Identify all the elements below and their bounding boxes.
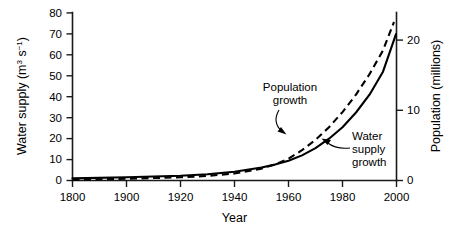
- y2-tick-label-20: 20: [407, 34, 420, 46]
- series-line-water-supply-growth: [73, 34, 397, 178]
- y-tick-label-40: 40: [49, 91, 62, 103]
- y-axis-left-title-tail: ): [15, 37, 29, 41]
- series-line-population-growth: [73, 22, 395, 180]
- y-tick-label-0: 0: [56, 174, 62, 186]
- series-group: [73, 22, 397, 180]
- x-tick-label-2000: 2000: [384, 191, 410, 203]
- y-tick-label-50: 50: [49, 70, 62, 82]
- x-tick-label-1900: 1900: [114, 191, 140, 203]
- y-axis-left-ticks: 0 10 20 30 40 50 60 70 80: [49, 7, 72, 187]
- x-tick-label-1960: 1960: [276, 191, 302, 203]
- y-tick-label-80: 80: [49, 7, 62, 19]
- y-tick-label-10: 10: [49, 153, 62, 165]
- y-tick-label-70: 70: [49, 28, 62, 40]
- chart-figure: 0 10 20 30 40 50 60 70 80 0 10: [0, 0, 449, 236]
- y-axis-left-title: Water supply (m3 s−1): [15, 37, 29, 155]
- annotation-population-growth: Population growth: [263, 81, 317, 135]
- x-axis-ticks: 1800 1900 1920 1940 1960 1980 2000: [60, 181, 410, 204]
- x-axis-title: Year: [222, 211, 247, 225]
- y-tick-label-30: 30: [49, 112, 62, 124]
- annotation-water-supply-growth-line-1: Water: [352, 130, 382, 142]
- annotation-water-supply-growth-leader: [327, 143, 350, 149]
- annotation-population-growth-line-2: growth: [273, 94, 308, 106]
- y-axis-left-title-mid: s: [15, 50, 29, 60]
- y-tick-label-20: 20: [49, 132, 62, 144]
- y2-tick-label-0: 0: [407, 174, 413, 186]
- y2-tick-label-10: 10: [407, 104, 420, 116]
- y-axis-right-title: Population (millions): [429, 40, 443, 153]
- axes-group: [73, 13, 397, 181]
- x-tick-label-1920: 1920: [168, 191, 194, 203]
- annotation-water-supply-growth-line-2: supply: [352, 143, 385, 155]
- chart-canvas: 0 10 20 30 40 50 60 70 80 0 10: [0, 0, 449, 236]
- annotation-water-supply-growth-line-3: growth: [352, 156, 387, 168]
- y-tick-label-60: 60: [49, 49, 62, 61]
- y-axis-right-ticks: 0 10 20: [397, 34, 420, 186]
- x-tick-label-1980: 1980: [330, 191, 356, 203]
- x-tick-label-1940: 1940: [222, 191, 248, 203]
- x-tick-label-1800: 1800: [60, 191, 86, 203]
- y-axis-left-title-base: Water supply (m: [15, 64, 29, 155]
- annotation-population-growth-line-1: Population: [263, 81, 317, 93]
